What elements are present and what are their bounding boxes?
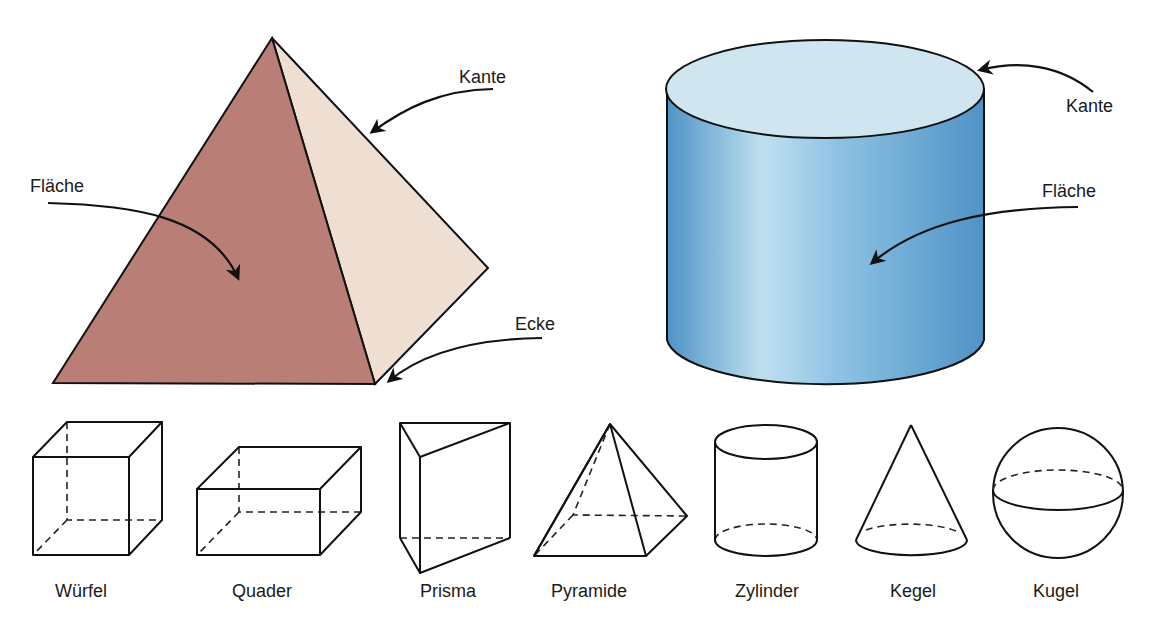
geometric-solids-diagram: Kante Fläche Ecke Kante Fläche xyxy=(0,0,1151,632)
label-kegel: Kegel xyxy=(890,581,936,601)
cuboid-figure xyxy=(197,447,361,555)
label-quader: Quader xyxy=(232,581,292,601)
label-wuerfel: Würfel xyxy=(55,581,107,601)
prism-figure xyxy=(400,423,510,573)
label-zylinder: Zylinder xyxy=(735,581,799,601)
cylinder-top xyxy=(666,40,984,138)
large-cylinder xyxy=(666,40,1093,384)
label-prisma: Prisma xyxy=(420,581,477,601)
cylinder-edge-label: Kante xyxy=(1066,96,1113,116)
pyramid-face-label: Fläche xyxy=(30,176,84,196)
label-kugel: Kugel xyxy=(1033,581,1079,601)
small-cylinder-figure xyxy=(715,425,817,556)
cube-figure xyxy=(33,422,162,555)
small-pyramid-figure xyxy=(534,424,687,556)
pyramid-edge-label: Kante xyxy=(459,67,506,87)
pyramid-vertex-label: Ecke xyxy=(515,314,555,334)
edge-arrow xyxy=(372,89,493,132)
large-pyramid xyxy=(48,38,542,384)
cone-figure xyxy=(856,425,967,555)
label-pyramide: Pyramide xyxy=(551,581,627,601)
sphere-figure xyxy=(993,428,1123,558)
cylinder-face-label: Fläche xyxy=(1042,181,1096,201)
cylinder-edge-arrow xyxy=(980,65,1093,92)
